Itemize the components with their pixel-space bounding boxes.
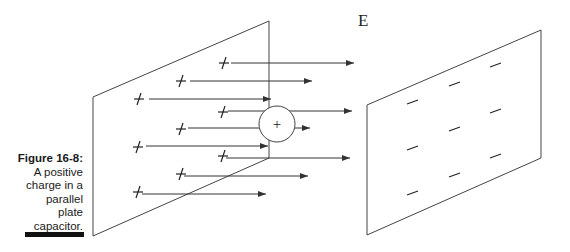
negative-plate [367, 30, 541, 235]
plus-icon [218, 150, 228, 162]
plus-icon [133, 141, 143, 153]
plus-icon [218, 106, 228, 118]
plus-icon [133, 186, 143, 198]
plus-icon [176, 123, 186, 135]
charge-symbol: + [273, 116, 281, 132]
plus-icon [219, 57, 229, 69]
minus-icon [449, 82, 460, 86]
plus-icon [176, 168, 186, 180]
minus-icon [407, 191, 418, 195]
minus-icon [490, 109, 501, 113]
minus-icon [449, 173, 460, 177]
field-lines [142, 63, 354, 194]
plus-icon [176, 75, 186, 87]
minus-icon [407, 100, 418, 104]
test-charge: + [259, 106, 295, 142]
minus-icon [449, 127, 460, 131]
plus-icon [134, 93, 144, 105]
field-label: E [358, 11, 368, 30]
minus-icon [490, 154, 501, 158]
minus-icon [490, 63, 501, 67]
minus-icon [407, 146, 418, 150]
capacitor-diagram: + E [0, 0, 570, 252]
minus-charges [407, 63, 501, 195]
